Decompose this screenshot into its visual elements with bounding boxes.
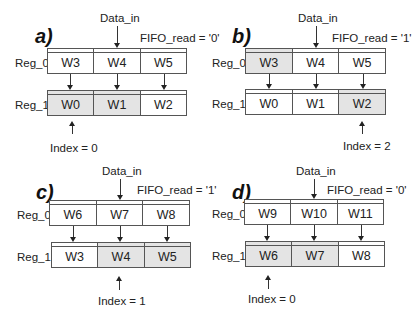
arrow-head-icon — [114, 85, 120, 90]
shift-arrow — [167, 226, 168, 237]
reg1-cell: W4 — [98, 243, 144, 267]
reg0-cell: W4 — [94, 49, 140, 73]
shift-arrow — [363, 74, 364, 84]
reg0-cell: W4 — [293, 49, 340, 73]
fifo-read-label: FIFO_read = '1' — [137, 185, 217, 197]
reg0-cell: W7 — [97, 201, 144, 225]
reg0-cell: W11 — [338, 200, 383, 224]
reg0-cell: W3 — [48, 49, 94, 73]
data-in-label: Data_in — [102, 166, 142, 178]
arrow-head-icon — [117, 237, 123, 242]
index-label: Index = 1 — [98, 296, 146, 308]
reg0-register: W3W4W5 — [245, 48, 386, 74]
index-arrow — [119, 281, 120, 290]
fifo-read-label: FIFO_read = '0' — [327, 185, 407, 197]
reg0-label: Reg_0 — [15, 58, 49, 70]
shift-arrow — [73, 226, 74, 237]
reg0-register: W6W7W8 — [49, 200, 190, 226]
panel-letter: b) — [232, 26, 251, 46]
reg1-register: W6W7W8 — [245, 241, 385, 267]
fifo-read-label: FIFO_read = '1' — [332, 33, 412, 45]
reg0-cell: W6 — [50, 201, 97, 225]
reg0-cell: W9 — [245, 200, 291, 224]
reg0-cell: W5 — [339, 49, 385, 73]
data-in-arrow — [117, 26, 118, 43]
reg1-register: W0W1W2 — [245, 89, 386, 115]
reg1-cell: W3 — [52, 243, 98, 267]
reg0-label: Reg_0 — [212, 209, 246, 221]
data-in-arrow — [120, 179, 121, 195]
arrow-head-icon — [264, 236, 270, 241]
reg1-cell: W5 — [145, 243, 190, 267]
arrow-head-icon — [313, 84, 319, 89]
reg0-cell: W5 — [141, 49, 186, 73]
reg1-cell: W0 — [246, 90, 293, 114]
arrow-head-icon — [266, 84, 272, 89]
index-arrow — [72, 126, 73, 134]
shift-arrow — [117, 74, 118, 85]
shift-arrow — [314, 225, 315, 236]
index-label: Index = 0 — [50, 143, 98, 155]
reg0-cell: W10 — [291, 200, 337, 224]
reg1-label: Reg_1 — [212, 251, 246, 263]
reg0-cell: W3 — [246, 49, 293, 73]
arrow-head-icon — [67, 85, 73, 90]
data-in-label: Data_in — [298, 13, 338, 25]
index-arrow — [362, 126, 363, 134]
panel-letter: a) — [35, 26, 53, 46]
reg0-register: W9W10W11 — [244, 199, 384, 225]
shift-arrow — [70, 74, 71, 85]
arrow-head-icon — [70, 237, 76, 242]
shift-arrow — [361, 225, 362, 236]
arrow-head-icon — [358, 236, 364, 241]
reg1-cell: W6 — [246, 242, 292, 266]
index-label: Index = 0 — [248, 294, 296, 306]
reg1-label: Reg_1 — [17, 252, 51, 264]
reg1-label: Reg_1 — [212, 99, 246, 111]
data-in-arrow — [314, 179, 315, 194]
reg1-label: Reg_1 — [15, 100, 49, 112]
shift-arrow — [269, 74, 270, 84]
reg1-cell: W1 — [293, 90, 340, 114]
arrow-head-icon — [360, 84, 366, 89]
arrow-head-icon — [161, 85, 167, 90]
reg1-cell: W2 — [339, 90, 385, 114]
shift-arrow — [120, 226, 121, 237]
reg0-cell: W8 — [143, 201, 189, 225]
reg1-register: W3W4W5 — [51, 242, 191, 268]
reg1-cell: W2 — [141, 91, 186, 115]
data-in-label: Data_in — [296, 166, 336, 178]
reg1-cell: W8 — [339, 242, 384, 266]
reg1-register: W0W1W2 — [47, 90, 187, 116]
arrow-head-icon — [311, 236, 317, 241]
index-label: Index = 2 — [343, 141, 391, 153]
data-in-arrow — [316, 26, 317, 43]
shift-arrow — [164, 74, 165, 85]
arrow-head-icon — [164, 237, 170, 242]
index-arrow — [268, 280, 269, 289]
data-in-label: Data_in — [100, 13, 140, 25]
reg1-cell: W1 — [94, 91, 140, 115]
panel-letter: c) — [36, 182, 54, 202]
reg1-cell: W7 — [292, 242, 338, 266]
reg1-cell: W0 — [48, 91, 94, 115]
shift-arrow — [267, 225, 268, 236]
reg0-register: W3W4W5 — [47, 48, 187, 74]
reg0-label: Reg_0 — [17, 210, 51, 222]
reg0-label: Reg_0 — [212, 58, 246, 70]
shift-arrow — [316, 74, 317, 84]
fifo-read-label: FIFO_read = '0' — [140, 33, 220, 45]
